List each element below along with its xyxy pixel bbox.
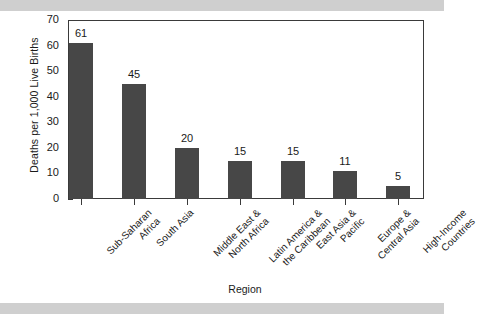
bar-europe-central-asia[interactable]: 11 (333, 171, 357, 199)
x-category-europe-central-asia: Europe & Central Asia (367, 207, 421, 261)
x-category-middle-east-north-africa: Middle East & North Africa (211, 207, 271, 267)
x-category-sub-saharan-africa: Sub-Saharan Africa (104, 207, 162, 265)
x-category-south-asia: South Asia (154, 207, 196, 249)
x-axis-category-labels: Sub-Saharan Africa South Asia Middle Eas… (0, 199, 444, 279)
x-category-high-income-countries: High-Income Countries (421, 207, 477, 263)
y-axis-title: Deaths per 1,000 Live Births (28, 10, 40, 200)
bar-middle-east-north-africa[interactable]: 20 (175, 148, 199, 199)
x-axis-title-text: Region (228, 283, 261, 295)
page-edge-bottom (0, 303, 444, 314)
page-edge-top (0, 0, 444, 11)
bar-sub-saharan-africa[interactable]: 61 (69, 43, 93, 199)
y-tick-label: 70 (47, 13, 59, 25)
bar-east-asia-pacific[interactable]: 15 (281, 161, 305, 199)
bar-value-label: 20 (167, 132, 207, 144)
bar-value-label: 61 (61, 27, 101, 39)
bar-value-label: 45 (114, 68, 154, 80)
bar-south-asia[interactable]: 45 (122, 84, 146, 199)
bar-value-label: 15 (273, 145, 313, 157)
y-tick-label: 60 (47, 39, 59, 51)
y-tick-label: 40 (47, 90, 59, 102)
bar-value-label: 5 (378, 170, 418, 182)
y-tick-label: 30 (47, 115, 59, 127)
x-axis-title: Region (0, 283, 444, 295)
bar-chart: Deaths per 1,000 Live Births 70 60 50 40… (0, 11, 444, 303)
bar-latin-america-caribbean[interactable]: 15 (228, 161, 252, 199)
y-tick-label: 50 (47, 64, 59, 76)
bar-series: 61 45 20 15 15 11 5 (68, 20, 424, 199)
bar-value-label: 11 (325, 155, 365, 167)
figure-page: Deaths per 1,000 Live Births 70 60 50 40… (0, 11, 444, 303)
bar-high-income-countries[interactable]: 5 (386, 186, 410, 199)
y-tick-label: 10 (47, 166, 59, 178)
bar-value-label: 15 (220, 145, 260, 157)
y-tick-label: 20 (47, 141, 59, 153)
